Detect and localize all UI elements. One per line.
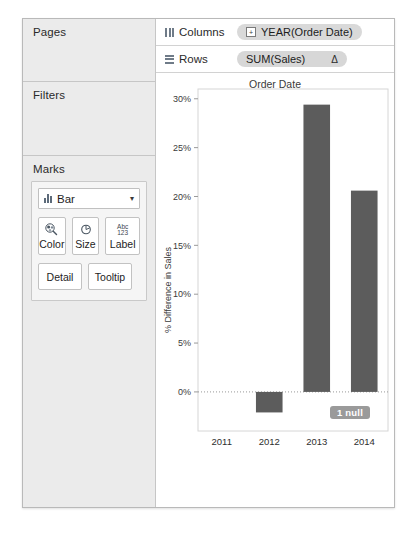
chevron-down-icon[interactable]: ▾ [130,195,134,203]
plot-host: % Difference in Sales 30%25%20%15%10%5%0… [156,73,394,507]
rows-shelf-label-group: Rows [165,53,237,65]
svg-text:2014: 2014 [354,436,375,447]
detail-button-label: Detail [47,271,74,283]
svg-text:2012: 2012 [259,436,280,447]
size-button[interactable]: Size [72,217,100,255]
pages-shelf-label: Pages [23,19,155,38]
color-button-label: Color [39,238,64,250]
pill-year-order-date-text: YEAR(Order Date) [261,26,353,38]
label-abc-icon: Abc 123 [117,222,128,237]
pill-year-order-date[interactable]: + YEAR(Order Date) [237,24,362,40]
marks-button-row-1: Color Size [38,217,140,255]
color-palette-icon [44,222,59,237]
null-indicator-badge[interactable]: 1 null [330,406,370,419]
detail-button[interactable]: Detail [38,263,82,290]
pill-sum-sales-text: SUM(Sales) [246,53,305,65]
tableau-worksheet-window: Pages Filters Marks Bar ▾ [22,18,395,508]
marks-shelf-label: Marks [23,156,155,175]
mark-type-value: Bar [57,193,75,205]
shelves-sidebar: Pages Filters Marks Bar ▾ [23,19,156,507]
table-calculation-delta-icon[interactable]: Δ [331,54,338,65]
pages-shelf[interactable]: Pages [23,19,155,82]
svg-text:10%: 10% [173,289,191,299]
rows-label: Rows [179,53,208,65]
svg-text:30%: 30% [173,94,191,104]
label-button[interactable]: Abc 123 Label [105,217,140,255]
viz-pane: Columns + YEAR(Order Date) Rows SUM(Sale… [156,19,394,507]
svg-text:0%: 0% [178,387,191,397]
filters-shelf[interactable]: Filters [23,82,155,156]
marks-button-row-2: Detail Tooltip [38,263,140,290]
svg-text:5%: 5% [178,338,191,348]
rows-icon [165,55,174,64]
size-circle-icon [79,222,93,237]
svg-text:2013: 2013 [306,436,327,447]
tooltip-button-label: Tooltip [95,271,125,283]
svg-text:2011: 2011 [212,436,232,447]
bar-mark-icon [44,194,52,203]
tooltip-button[interactable]: Tooltip [88,263,132,290]
mark-type-dropdown[interactable]: Bar ▾ [38,188,140,209]
columns-label: Columns [179,26,224,38]
columns-icon [165,28,174,37]
label-button-label: Label [110,238,136,250]
plus-expander-icon[interactable]: + [246,27,256,37]
svg-text:20%: 20% [173,192,191,202]
pill-sum-sales[interactable]: SUM(Sales) Δ [237,51,347,67]
columns-shelf[interactable]: Columns + YEAR(Order Date) [156,19,394,46]
chart-area: Order Date % Difference in Sales 30%25%2… [156,73,394,507]
filters-shelf-label: Filters [23,82,155,101]
label-icon-123: 123 [117,229,128,236]
color-button[interactable]: Color [38,217,66,255]
size-button-label: Size [75,238,95,250]
svg-text:15%: 15% [173,241,191,251]
marks-card: Bar ▾ [31,181,147,301]
rows-shelf[interactable]: Rows SUM(Sales) Δ [156,46,394,73]
columns-shelf-label-group: Columns [165,26,237,38]
marks-shelf: Marks Bar ▾ [23,156,155,301]
svg-text:25%: 25% [173,143,191,153]
